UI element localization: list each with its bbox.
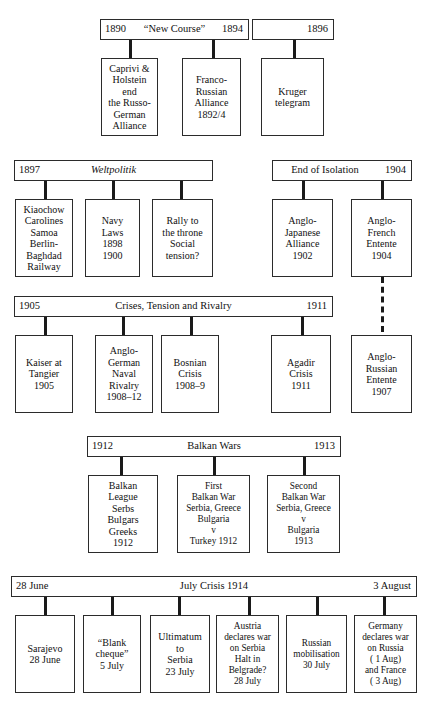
event-box: Franco- Russian Alliance 1892/4 [182, 58, 241, 136]
event-box: Agadir Crisis 1911 [271, 335, 331, 413]
event-box: Germany declares war on Russia ( 1 Aug) … [354, 615, 417, 693]
event-box-text: Ultimatum to Serbia 23 July [153, 631, 207, 677]
connector-line [316, 597, 319, 615]
event-box: Russian mobilisation 30 July [286, 615, 347, 693]
event-box: First Balkan War Serbia, Greece Bulgaria… [177, 475, 250, 553]
connector-line [129, 40, 132, 58]
connector-line [248, 597, 251, 615]
connector-line-dashed [381, 277, 384, 332]
connector-line [178, 597, 181, 615]
event-box-text: First Balkan War Serbia, Greece Bulgaria… [180, 481, 247, 547]
event-box-text: Agadir Crisis 1911 [274, 357, 328, 392]
bar-right-label: 1904 [385, 165, 406, 176]
connector-line [44, 317, 47, 335]
event-box: Balkan League Serbs Bulgars Greeks 1912 [88, 475, 158, 553]
event-box: Anglo- Russian Entente 1907 [351, 335, 412, 413]
connector-line [301, 317, 304, 335]
bar-right-label: 1896 [307, 24, 328, 35]
event-box-text: Navy Laws 1898 1900 [88, 215, 137, 261]
bar-center-label: Balkan Wars [88, 441, 340, 452]
event-box: Second Balkan War Serbia, Greece v Bulga… [267, 475, 340, 553]
event-box: “Blank cheque” 5 July [83, 615, 141, 693]
event-box-text: Bosnian Crisis 1908–9 [164, 357, 216, 392]
connector-line [180, 181, 183, 199]
event-box: Anglo- French Entente 1904 [351, 199, 412, 277]
bar-center-label: End of Isolation [273, 165, 377, 176]
event-box-text: Sarajevo 28 June [18, 643, 72, 666]
event-box-text: Austria declares war on Serbia Halt in B… [219, 621, 276, 687]
connector-line [212, 40, 215, 58]
bar-center-label: Crises, Tension and Rivalry [15, 301, 332, 312]
bar-right-label: 3 August [373, 581, 411, 592]
event-box-text: Anglo- German Naval Rivalry 1908–12 [98, 345, 150, 403]
header-bar-end-of-isolation: End of Isolation 1904 [272, 160, 412, 181]
connector-line [111, 597, 114, 615]
connector-line [112, 181, 115, 199]
event-box-text: Anglo- Japanese Alliance 1902 [275, 215, 330, 261]
connector-line [213, 457, 216, 475]
event-box: Navy Laws 1898 1900 [85, 199, 140, 277]
bar-right-label: 1913 [314, 441, 335, 452]
event-box-text: Germany declares war on Russia ( 1 Aug) … [357, 621, 414, 687]
connector-line [44, 181, 47, 199]
connector-line [122, 317, 125, 335]
bar-right-label: 1894 [222, 24, 243, 35]
event-box-text: “Blank cheque” 5 July [86, 637, 138, 672]
event-box: Kruger telegram [261, 58, 324, 136]
event-box: Sarajevo 28 June [15, 615, 75, 693]
bar-center-label: July Crisis 1914 [12, 581, 416, 592]
event-box: Kiaochow Carolines Samoa Berlin- Baghdad… [15, 199, 73, 277]
connector-line [381, 181, 384, 199]
event-box-text: Russian mobilisation 30 July [289, 638, 344, 671]
event-box: Ultimatum to Serbia 23 July [150, 615, 210, 693]
header-bar-july-crisis: 28 June July Crisis 1914 3 August [11, 576, 417, 597]
connector-line [190, 317, 193, 335]
event-box-text: Rally to the throne Social tension? [155, 215, 210, 261]
event-box: Caprivi & Holstein end the Russo- German… [101, 58, 158, 136]
header-bar-1896: 1896 [252, 19, 334, 40]
event-box-text: Kiaochow Carolines Samoa Berlin- Baghdad… [18, 204, 70, 273]
event-box: Anglo- Japanese Alliance 1902 [272, 199, 333, 277]
event-box: Anglo- German Naval Rivalry 1908–12 [95, 335, 153, 413]
event-box-text: Caprivi & Holstein end the Russo- German… [104, 63, 155, 132]
bar-right-label: 1911 [306, 301, 327, 312]
event-box-text: Franco- Russian Alliance 1892/4 [185, 74, 238, 120]
event-box-text: Anglo- Russian Entente 1907 [354, 351, 409, 397]
event-box: Kaiser at Tangier 1905 [15, 335, 73, 413]
event-box: Bosnian Crisis 1908–9 [161, 335, 219, 413]
connector-line [302, 181, 305, 199]
connector-line [383, 597, 386, 615]
event-box: Austria declares war on Serbia Halt in B… [216, 615, 279, 693]
event-box: Rally to the throne Social tension? [152, 199, 213, 277]
connector-line [120, 457, 123, 475]
timeline-diagram: 1890 “New Course” 1894 1896 Caprivi & Ho… [0, 0, 427, 709]
header-bar-weltpolitik: 1897 Weltpolitik [14, 160, 213, 181]
bar-center-label: Weltpolitik [15, 165, 212, 176]
event-box-text: Anglo- French Entente 1904 [354, 215, 409, 261]
connector-line [44, 597, 47, 615]
header-bar-crises: 1905 Crises, Tension and Rivalry 1911 [14, 296, 333, 317]
event-box-text: Balkan League Serbs Bulgars Greeks 1912 [91, 480, 155, 549]
header-bar-new-course: 1890 “New Course” 1894 [100, 19, 249, 40]
event-box-text: Second Balkan War Serbia, Greece v Bulga… [270, 481, 337, 547]
connector-line [303, 457, 306, 475]
event-box-text: Kruger telegram [264, 86, 321, 109]
connector-line [293, 40, 296, 58]
header-bar-balkan-wars: 1912 Balkan Wars 1913 [87, 436, 341, 457]
event-box-text: Kaiser at Tangier 1905 [18, 357, 70, 392]
